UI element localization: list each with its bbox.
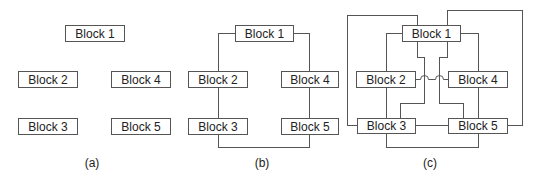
block-label: Block 2 <box>198 73 238 87</box>
panel-b-block-2: Block 2 <box>189 72 248 88</box>
panel-a-block-3: Block 3 <box>19 119 78 135</box>
panel-a-caption: (a) <box>85 156 100 170</box>
block-label: Block 4 <box>458 73 498 87</box>
wire-c-b2-b4-hop <box>415 76 448 80</box>
block-label: Block 3 <box>28 120 68 134</box>
panel-c-block-4: Block 4 <box>449 72 508 88</box>
block-label: Block 2 <box>366 73 406 87</box>
panel-a-block-5: Block 5 <box>112 119 171 135</box>
block-label: Block 5 <box>458 119 498 133</box>
panel-a-block-2: Block 2 <box>19 72 78 88</box>
block-diagram: Block 1 Block 2 Block 3 Block 4 Block 5 … <box>0 0 538 179</box>
panel-c-block-1: Block 1 <box>403 26 461 42</box>
block-label: Block 1 <box>245 27 285 41</box>
block-label: Block 5 <box>121 120 161 134</box>
panel-b: Block 1 Block 2 Block 3 Block 4 Block 5 … <box>189 26 339 171</box>
panel-a-block-1: Block 1 <box>66 26 125 42</box>
panel-b-block-4: Block 4 <box>282 72 339 88</box>
panel-b-block-1: Block 1 <box>236 26 294 42</box>
panel-b-block-3: Block 3 <box>189 119 248 135</box>
block-label: Block 1 <box>75 27 115 41</box>
block-label: Block 3 <box>367 119 407 133</box>
panel-c-block-3: Block 3 <box>358 119 416 134</box>
panel-c: Block 1 Block 2 Block 3 Block 4 Block 5 … <box>348 11 523 171</box>
block-label: Block 4 <box>121 73 161 87</box>
panel-c-block-2: Block 2 <box>357 72 416 88</box>
panel-b-block-5: Block 5 <box>282 119 339 135</box>
block-label: Block 3 <box>198 120 238 134</box>
panel-a: Block 1 Block 2 Block 3 Block 4 Block 5 … <box>19 26 171 171</box>
panel-c-block-5: Block 5 <box>449 119 508 134</box>
block-label: Block 5 <box>290 120 330 134</box>
block-label: Block 1 <box>412 27 452 41</box>
panel-b-caption: (b) <box>255 156 270 170</box>
block-label: Block 2 <box>28 73 68 87</box>
panel-a-block-4: Block 4 <box>112 72 171 88</box>
panel-c-caption: (c) <box>423 156 437 170</box>
block-label: Block 4 <box>290 73 330 87</box>
